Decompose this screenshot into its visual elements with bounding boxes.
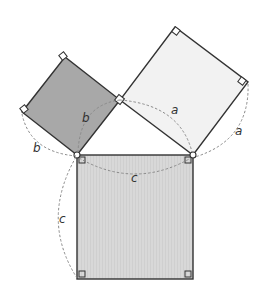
label-c-outer: c xyxy=(59,212,66,226)
label-b-outer: b xyxy=(33,141,41,155)
label-b-inner: b xyxy=(82,111,90,125)
label-c-inner: c xyxy=(131,171,138,185)
label-a-inner: a xyxy=(171,103,178,117)
pythagoras-diagram: b a c b a c xyxy=(0,0,268,296)
square-a xyxy=(120,27,248,155)
label-a-outer: a xyxy=(235,124,242,138)
